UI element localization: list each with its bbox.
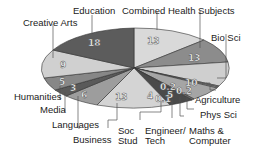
label-bio-sci: Bio Sci [211, 33, 241, 43]
label-education: Education [73, 6, 115, 16]
label-health: Health Subjects [168, 6, 235, 16]
label-soc-2: Stud [118, 136, 138, 146]
value-education: 18 [88, 38, 101, 48]
label-media: Media [40, 105, 66, 115]
label-eng-2: Tech [145, 136, 165, 146]
label-phys-sci: Phys Sci [200, 110, 237, 120]
label-business: Business [73, 135, 112, 145]
value-combined: 13 [147, 36, 160, 46]
value-media: 3 [70, 83, 76, 93]
value-agri: 0.2 [160, 82, 176, 92]
label-humanities: Humanities [14, 92, 62, 102]
value-business: 13 [115, 92, 128, 102]
value-soc: 4 [147, 91, 153, 101]
label-combined: Combined [122, 6, 165, 16]
label-maths-2: Computer [189, 136, 231, 146]
label-creative-arts: Creative Arts [23, 18, 77, 28]
value-health: 13 [188, 53, 201, 63]
value-languages: 6 [81, 90, 87, 100]
value-bio: 10 [185, 78, 198, 88]
label-agriculture: Agriculture [195, 95, 240, 105]
value-humanities: 5 [59, 77, 65, 87]
value-creative: 9 [60, 60, 66, 70]
label-languages: Languages [52, 120, 99, 130]
